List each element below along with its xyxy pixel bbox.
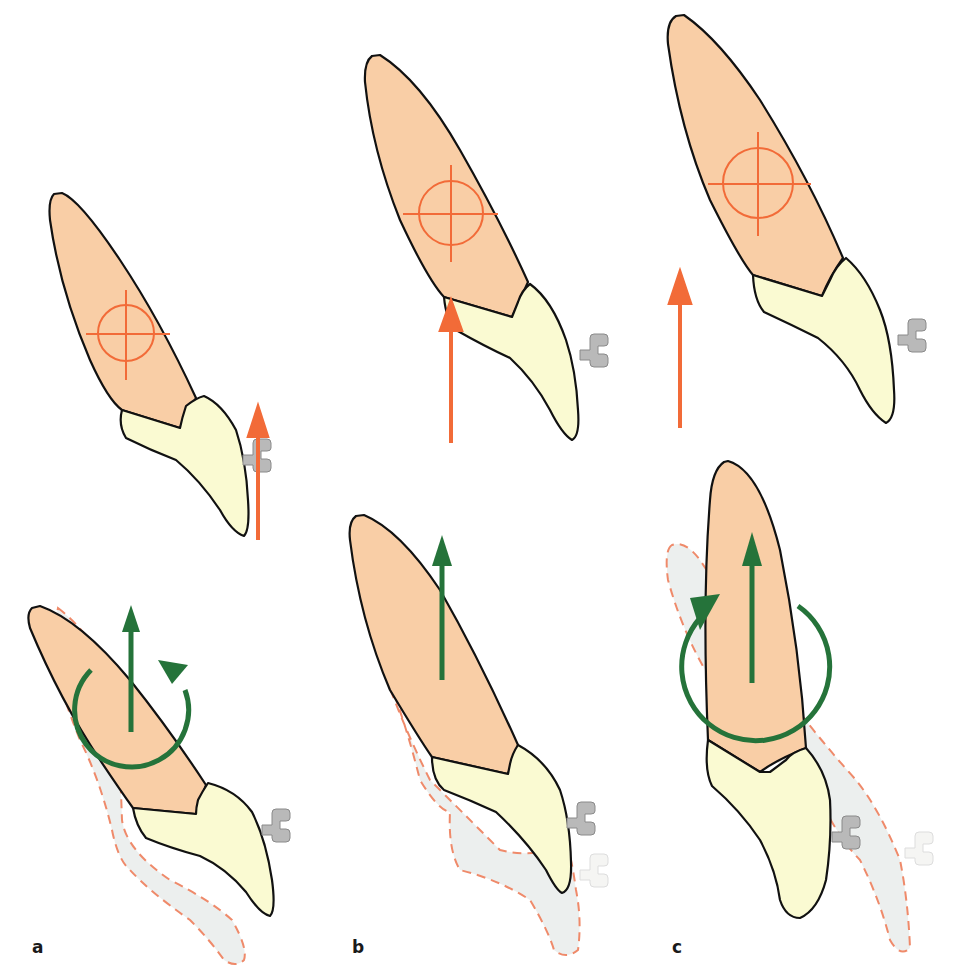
- panel-c-top-tooth: [668, 15, 926, 428]
- applied-force-arrow: [249, 408, 267, 540]
- panel-a-top-tooth: [50, 193, 272, 540]
- bracket-original-position: [580, 854, 608, 887]
- panel-label-c: c: [672, 937, 682, 957]
- panel-b-top-tooth: [365, 55, 608, 443]
- root: [50, 193, 197, 428]
- bracket: [898, 319, 926, 352]
- root: [668, 15, 843, 296]
- panel-c-bottom-tooth: [667, 461, 933, 952]
- panel-b-bottom-tooth: [350, 515, 608, 955]
- root: [350, 515, 518, 774]
- crown: [121, 396, 249, 536]
- bracket: [567, 802, 595, 835]
- root: [705, 461, 806, 772]
- panel-label-a: a: [32, 937, 43, 957]
- bracket: [262, 809, 290, 842]
- applied-force-arrow: [441, 302, 461, 443]
- root: [28, 606, 206, 814]
- panel-a-bottom-tooth: [28, 605, 290, 964]
- bracket: [580, 334, 608, 367]
- applied-force-arrow: [670, 273, 690, 428]
- bracket-original-position: [905, 832, 933, 865]
- root: [365, 55, 528, 317]
- tooth-movement-diagram: [0, 0, 971, 977]
- panel-label-b: b: [352, 937, 364, 957]
